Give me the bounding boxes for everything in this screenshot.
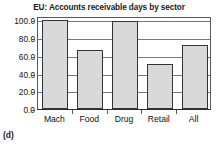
bar: [147, 64, 173, 109]
bar: [42, 20, 68, 109]
y-tick-mark: [31, 39, 35, 40]
x-tick-label: All: [189, 114, 199, 125]
bar: [182, 45, 208, 109]
y-tick-mark: [31, 21, 35, 22]
bar: [112, 21, 138, 109]
x-tick-mark: [107, 110, 108, 114]
x-tick-label: Food: [79, 114, 99, 125]
x-tick-label: Drug: [115, 114, 134, 125]
y-tick-mark: [31, 110, 35, 111]
y-tick-mark: [31, 92, 35, 93]
bars-layer: [38, 18, 210, 109]
x-tick-label: Retail: [148, 114, 170, 125]
y-tick-label: 0.0: [0, 106, 35, 115]
chart-title: EU: Accounts receivable days by sector: [0, 2, 218, 13]
x-axis: MachFoodDrugRetailAll: [37, 110, 211, 130]
y-tick-label: 20.0: [0, 88, 35, 97]
y-tick-label: 80.0: [0, 35, 35, 44]
y-axis: 0.020.040.060.080.0100.0: [0, 17, 35, 110]
bar: [77, 50, 103, 109]
x-tick-mark: [176, 110, 177, 114]
y-tick-label: 100.0: [0, 17, 35, 26]
y-tick-label: 60.0: [0, 52, 35, 61]
chart-figure: EU: Accounts receivable days by sector 0…: [0, 0, 218, 147]
x-tick-mark: [72, 110, 73, 114]
y-tick-mark: [31, 75, 35, 76]
x-tick-mark: [141, 110, 142, 114]
figure-caption: (d): [3, 130, 14, 141]
y-tick-label: 40.0: [0, 70, 35, 79]
y-tick-mark: [31, 57, 35, 58]
x-tick-label: Mach: [44, 114, 65, 125]
plot-area: [37, 17, 211, 110]
